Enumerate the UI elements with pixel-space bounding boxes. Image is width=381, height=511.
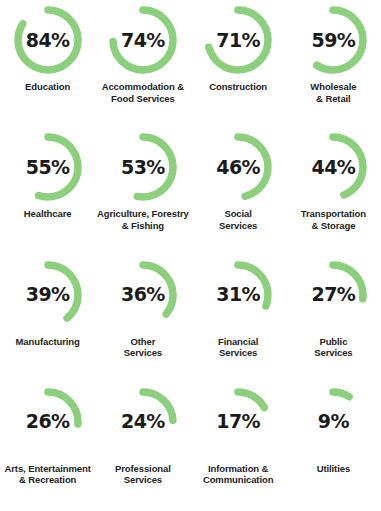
- donut-value-label: 17%: [216, 412, 260, 431]
- donut-ring: 46%: [200, 129, 276, 205]
- donut-cell: 55%Healthcare: [0, 129, 95, 256]
- donut-cell: 36%Other Services: [95, 257, 190, 384]
- donut-ring: 55%: [10, 129, 86, 205]
- donut-ring: 27%: [295, 257, 371, 333]
- donut-cell: 39%Manufacturing: [0, 257, 95, 384]
- donut-ring: 44%: [295, 129, 371, 205]
- donut-value-label: 36%: [121, 285, 165, 304]
- donut-value-label: 53%: [121, 158, 165, 177]
- donut-ring: 39%: [10, 257, 86, 333]
- donut-ring: 59%: [295, 2, 371, 78]
- donut-category-label: Financial Services: [218, 336, 258, 359]
- donut-cell: 71%Construction: [191, 2, 286, 129]
- donut-category-label: Wholesale & Retail: [310, 81, 356, 104]
- donut-category-label: Other Services: [124, 336, 162, 359]
- donut-value-label: 59%: [312, 31, 356, 50]
- donut-cell: 24%Professional Services: [95, 384, 190, 511]
- donut-category-label: Healthcare: [24, 208, 72, 220]
- donut-category-label: Agriculture, Forestry & Fishing: [97, 208, 189, 231]
- donut-value-label: 55%: [26, 158, 70, 177]
- donut-value-label: 31%: [216, 285, 260, 304]
- donut-ring: 36%: [105, 257, 181, 333]
- donut-cell: 53%Agriculture, Forestry & Fishing: [95, 129, 190, 256]
- donut-ring: 9%: [295, 384, 371, 460]
- donut-category-label: Manufacturing: [16, 336, 80, 348]
- donut-ring: 31%: [200, 257, 276, 333]
- donut-value-label: 24%: [121, 412, 165, 431]
- donut-value-label: 39%: [26, 285, 70, 304]
- donut-value-label: 84%: [26, 31, 70, 50]
- donut-category-label: Public Services: [314, 336, 352, 359]
- donut-cell: 84%Education: [0, 2, 95, 129]
- donut-category-label: Utilities: [317, 463, 350, 475]
- donut-cell: 59%Wholesale & Retail: [286, 2, 381, 129]
- donut-ring: 74%: [105, 2, 181, 78]
- donut-value-label: 27%: [312, 285, 356, 304]
- donut-cell: 17%Information & Communication: [191, 384, 286, 511]
- donut-category-label: Construction: [209, 81, 267, 93]
- donut-category-label: Information & Communication: [203, 463, 273, 486]
- donut-cell: 44%Transportation & Storage: [286, 129, 381, 256]
- donut-ring: 71%: [200, 2, 276, 78]
- donut-cell: 31%Financial Services: [191, 257, 286, 384]
- donut-ring: 84%: [10, 2, 86, 78]
- donut-category-label: Transportation & Storage: [301, 208, 366, 231]
- donut-ring: 53%: [105, 129, 181, 205]
- donut-cell: 26%Arts, Entertainment & Recreation: [0, 384, 95, 511]
- donut-cell: 9%Utilities: [286, 384, 381, 511]
- donut-cell: 27%Public Services: [286, 257, 381, 384]
- donut-category-label: Arts, Entertainment & Recreation: [4, 463, 90, 486]
- donut-value-label: 74%: [121, 31, 165, 50]
- donut-category-label: Professional Services: [115, 463, 171, 486]
- donut-value-label: 71%: [216, 31, 260, 50]
- donut-cell: 74%Accommodation & Food Services: [95, 2, 190, 129]
- donut-value-label: 26%: [26, 412, 70, 431]
- donut-value-label: 46%: [216, 158, 260, 177]
- donut-category-label: Education: [25, 81, 70, 93]
- donut-ring: 24%: [105, 384, 181, 460]
- donut-category-label: Social Services: [219, 208, 257, 231]
- donut-ring: 17%: [200, 384, 276, 460]
- donut-ring: 26%: [10, 384, 86, 460]
- donut-category-label: Accommodation & Food Services: [102, 81, 184, 104]
- donut-value-label: 9%: [318, 412, 349, 431]
- donut-value-label: 44%: [312, 158, 356, 177]
- donut-chart-grid: 84%Education74%Accommodation & Food Serv…: [0, 0, 381, 511]
- donut-cell: 46%Social Services: [191, 129, 286, 256]
